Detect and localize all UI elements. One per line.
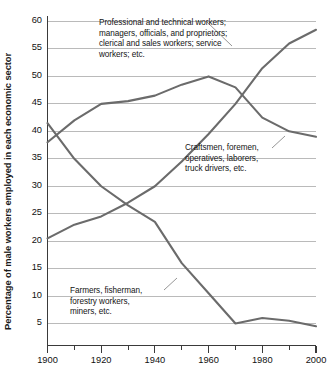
annotation-professional: Professional and technical workers; mana…: [99, 18, 227, 60]
annotation-craftsmen: Craftsmen, foremen, operatives, laborers…: [185, 143, 259, 175]
y-tick-label-30: 30: [18, 180, 42, 190]
y-tick-label-40: 40: [18, 125, 42, 135]
y-tick-label-10: 10: [18, 290, 42, 300]
annotation-farmers: Farmers, fisherman, forestry workers, mi…: [70, 286, 142, 318]
y-tick-label-60: 60: [18, 15, 42, 25]
x-tick-label-2000: 2000: [296, 355, 331, 365]
x-tick-label-1960: 1960: [189, 355, 229, 365]
y-tick-label-45: 45: [18, 97, 42, 107]
x-tick-label-1900: 1900: [28, 355, 68, 365]
x-tick-label-1940: 1940: [135, 355, 175, 365]
leader-line-farmers: [164, 278, 177, 290]
series-line-professional: [48, 30, 317, 239]
y-tick-label-50: 50: [18, 70, 42, 80]
series-line-craftsmen: [48, 76, 317, 142]
leader-line-craftsmen: [272, 136, 285, 148]
y-tick-label-15: 15: [18, 262, 42, 272]
y-tick-label-35: 35: [18, 152, 42, 162]
y-tick-label-5: 5: [18, 317, 42, 327]
data-series: [48, 30, 317, 327]
y-tick-label-55: 55: [18, 42, 42, 52]
y-tick-label-25: 25: [18, 207, 42, 217]
x-tick-label-1980: 1980: [242, 355, 282, 365]
y-tick-label-20: 20: [18, 235, 42, 245]
axis-ticks: [48, 346, 317, 353]
x-tick-label-1920: 1920: [81, 355, 121, 365]
